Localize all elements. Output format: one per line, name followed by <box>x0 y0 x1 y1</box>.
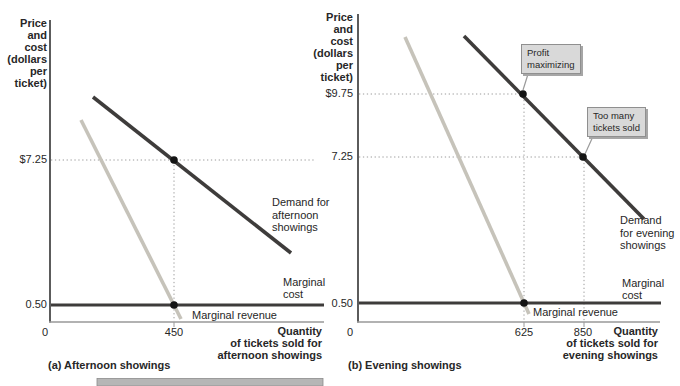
demand-label-line: afternoon <box>272 209 329 222</box>
x-axis-title-line: Quantity <box>563 325 658 337</box>
point-mr-mc-625 <box>520 299 528 307</box>
y-axis-title-line: (dollars <box>7 53 47 65</box>
marginal-cost-label-b: Marginal cost <box>622 278 664 301</box>
marginal-cost-label-line: Marginal <box>283 277 325 289</box>
marginal-cost-label-line: cost <box>622 290 664 302</box>
y-tick-0-50-b: 0.50 <box>332 297 353 309</box>
panel-b-x-axis-title: Quantity of tickets sold for evening sho… <box>563 325 658 361</box>
x-tick-625: 625 <box>515 326 533 338</box>
marginal-revenue-label-b: Marginal revenue <box>533 306 618 318</box>
partial-bottom-bar <box>97 379 323 386</box>
panel-b-marginal-revenue-curve <box>405 37 529 314</box>
x-tick-0-b: 0 <box>347 326 353 338</box>
x-axis-title-line: Quantity <box>218 325 323 337</box>
marginal-cost-label-line: cost <box>283 289 325 301</box>
callout-line: Too many <box>593 110 640 122</box>
callout-line: maximizing <box>527 59 575 71</box>
y-axis-title-line: Price <box>313 11 353 23</box>
callout-line: Profit <box>527 47 575 59</box>
x-axis-title-line: of tickets sold for <box>563 337 658 349</box>
point-demand-450 <box>170 156 178 164</box>
panel-a-marginal-revenue-curve <box>81 120 181 319</box>
figure-root: Price and cost (dollars per ticket) $7.2… <box>0 0 680 386</box>
demand-curve-label-b: Demand for evening showings <box>620 214 674 252</box>
y-axis-title-line: cost <box>313 35 353 47</box>
point-mr-mc-450 <box>170 301 178 309</box>
y-axis-title-line: ticket) <box>313 71 353 83</box>
marginal-cost-label-a: Marginal cost <box>283 277 325 300</box>
x-tick-0-a: 0 <box>42 326 48 338</box>
demand-label-line: for evening <box>620 227 674 240</box>
panel-a-caption: (a) Afternoon showings <box>48 359 170 371</box>
panel-a-y-axis-title: Price and cost (dollars per ticket) <box>7 17 47 89</box>
panel-b-y-axis-title: Price and cost (dollars per ticket) <box>313 11 353 83</box>
x-axis-title-line: of tickets sold for <box>218 337 323 349</box>
y-axis-title-line: (dollars <box>313 47 353 59</box>
demand-curve-label-a: Demand for afternoon showings <box>272 196 329 234</box>
panel-a-demand-curve <box>93 97 291 253</box>
demand-label-line: Demand <box>620 214 674 227</box>
y-tick-7-25-b: 7.25 <box>332 150 353 162</box>
demand-label-line: showings <box>272 221 329 234</box>
y-axis-title-line: Price <box>7 17 47 29</box>
panel-b-caption: (b) Evening showings <box>348 359 462 371</box>
panel-a-x-axis-title: Quantity of tickets sold for afternoon s… <box>218 325 323 361</box>
demand-label-line: Demand for <box>272 196 329 209</box>
y-axis-title-line: cost <box>7 41 47 53</box>
profit-maximizing-callout: Profit maximizing <box>521 44 581 74</box>
marginal-cost-label-line: Marginal <box>622 278 664 290</box>
y-tick-9-75: $9.75 <box>325 87 353 99</box>
demand-label-line: showings <box>620 239 674 252</box>
y-tick-7-25-a: $7.25 <box>19 153 47 165</box>
y-tick-0-50-a: 0.50 <box>26 298 47 310</box>
y-axis-title-line: and <box>7 29 47 41</box>
point-demand-625 <box>519 90 527 98</box>
callout-line: tickets sold <box>593 122 640 134</box>
too-many-tickets-callout: Too many tickets sold <box>587 107 646 137</box>
y-axis-title-line: per <box>313 59 353 71</box>
x-tick-450: 450 <box>165 326 183 338</box>
y-axis-title-line: per <box>7 65 47 77</box>
y-axis-title-line: and <box>313 23 353 35</box>
x-axis-title-line: evening showings <box>563 349 658 361</box>
marginal-revenue-label-a: Marginal revenue <box>192 309 277 321</box>
y-axis-title-line: ticket) <box>7 77 47 89</box>
point-demand-850 <box>579 153 587 161</box>
x-axis-title-line: afternoon showings <box>218 349 323 361</box>
